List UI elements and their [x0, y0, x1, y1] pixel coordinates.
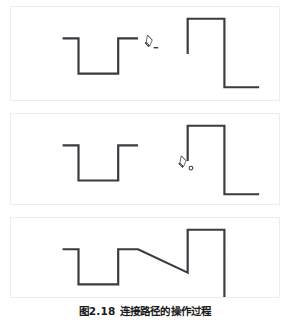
pen-tool-cursor — [179, 156, 193, 170]
pen-tool-cursor — [145, 35, 158, 48]
connected-path — [63, 230, 260, 297]
panel-1-canvas — [11, 7, 279, 100]
panel-3-canvas — [11, 218, 279, 297]
right-open-path — [188, 19, 259, 88]
panel-step-1 — [10, 6, 280, 101]
figure-caption-text: 连接路径的操作过程 — [120, 305, 212, 317]
panel-2-canvas — [11, 114, 279, 204]
anchor-point-marker — [189, 166, 193, 170]
left-open-path — [63, 38, 138, 73]
panel-step-2 — [10, 113, 280, 205]
figure-caption: 图2.18连接路径的操作过程 — [0, 303, 290, 318]
right-open-path — [188, 126, 259, 194]
panel-step-3 — [10, 217, 280, 298]
figure-caption-number: 图2.18 — [79, 305, 116, 317]
figure-connect-paths: 图2.18连接路径的操作过程 — [0, 0, 290, 323]
left-open-path — [63, 145, 138, 180]
